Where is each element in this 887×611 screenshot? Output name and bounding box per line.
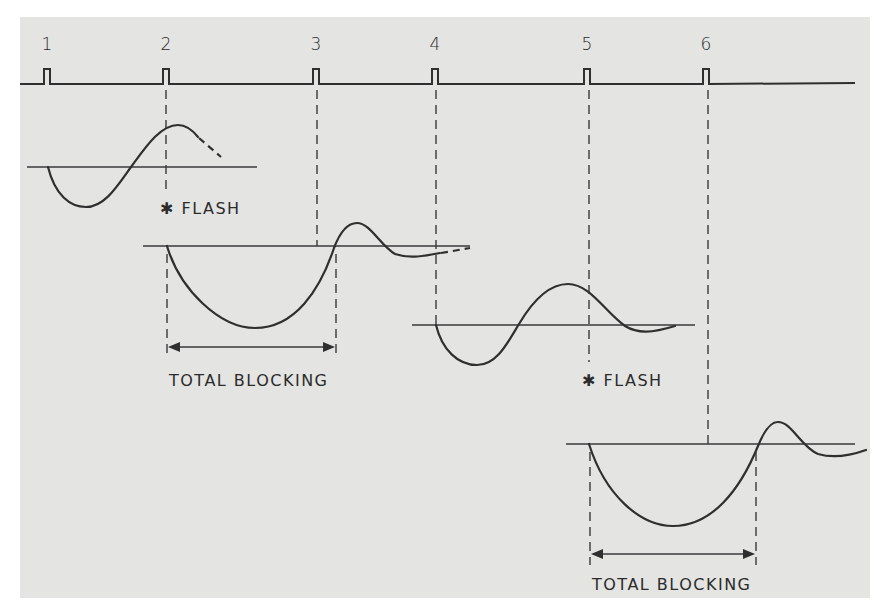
blocking-2-arrow-right-icon [743, 549, 755, 559]
flash-label-1: ✱ FLASH [160, 199, 241, 218]
pulse-label-4: 4 [430, 34, 441, 54]
pulse-labels: 1 2 3 4 5 6 [42, 34, 712, 54]
pulse-label-3: 3 [311, 34, 322, 54]
flash-label-2: ✱ FLASH [582, 371, 663, 390]
trace-2-extrapolation [441, 248, 470, 253]
trace-1-extrapolation [199, 138, 221, 157]
total-blocking-label-1: TOTAL BLOCKING [168, 371, 329, 390]
total-blocking-label-2: TOTAL BLOCKING [591, 575, 752, 594]
trace-1-curve [48, 125, 198, 207]
trace-4 [566, 422, 866, 565]
pulse-label-5: 5 [582, 34, 593, 54]
pulse-label-6: 6 [701, 34, 712, 54]
blocking-1-arrow-right-icon [323, 342, 335, 352]
pulse-train [20, 69, 855, 84]
trace-1 [27, 125, 257, 207]
trace-2 [143, 223, 470, 358]
pulse-label-2: 2 [161, 34, 172, 54]
trace-3 [412, 284, 695, 365]
blocking-2-arrow-left-icon [591, 549, 603, 559]
trace-2-curve [167, 223, 440, 328]
blocking-1-arrow-left-icon [168, 342, 180, 352]
pulse-label-1: 1 [42, 34, 53, 54]
diagram-canvas: 1 2 3 4 5 6 ✱ FLASH TOTAL BLOCKING ✱ FLA… [0, 0, 887, 611]
trace-4-curve [589, 422, 866, 526]
